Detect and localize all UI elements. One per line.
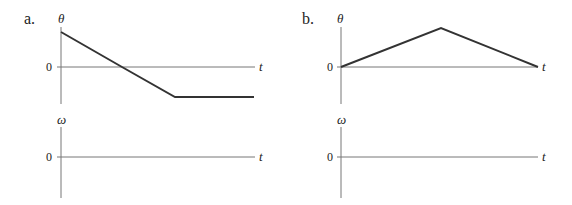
motion-graphs-figure: a. θ 0 t ω 0 t b. θ 0 t (0, 0, 572, 205)
theta-zero-label-b: 0 (327, 60, 333, 74)
omega-graph-a: ω 0 t (46, 112, 263, 198)
panel-a: a. θ 0 t ω 0 t (24, 10, 263, 198)
omega-zero-label-b: 0 (327, 150, 333, 164)
theta-curve-a (61, 32, 254, 97)
theta-curve-b (341, 28, 538, 67)
theta-axis-label-a: θ (58, 11, 65, 26)
panel-b: b. θ 0 t ω 0 t (302, 10, 546, 198)
theta-graph-b: θ 0 t (327, 11, 546, 104)
omega-axis-label-b: ω (337, 112, 346, 127)
theta-zero-label-a: 0 (46, 60, 52, 74)
omega-t-label-a: t (259, 149, 263, 164)
omega-zero-label-a: 0 (46, 150, 52, 164)
panel-label-a: a. (24, 10, 35, 27)
omega-t-label-b: t (542, 149, 546, 164)
omega-graph-b: ω 0 t (327, 112, 546, 198)
panel-label-b: b. (302, 10, 314, 27)
theta-t-label-a: t (259, 59, 263, 74)
theta-axis-label-b: θ (337, 11, 344, 26)
omega-axis-label-a: ω (57, 112, 66, 127)
theta-graph-a: θ 0 t (46, 11, 263, 104)
theta-t-label-b: t (542, 59, 546, 74)
